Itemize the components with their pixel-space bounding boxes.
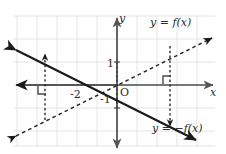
tick-label-x-negative-two: -2 [70, 88, 81, 101]
tick-label-y-negative-one: -1 [100, 93, 111, 106]
coordinate-plane-figure: y x O 1 -1 -2 y = f(x) y = −f(x) [0, 0, 226, 154]
curve-label-negative-f-x: y = −f(x) [152, 122, 203, 135]
origin-label: O [120, 86, 129, 99]
y-axis-label: y [119, 12, 125, 25]
x-axis-label: x [210, 86, 216, 99]
tick-label-y-one: 1 [107, 57, 114, 70]
curve-label-f-x: y = f(x) [150, 16, 191, 29]
